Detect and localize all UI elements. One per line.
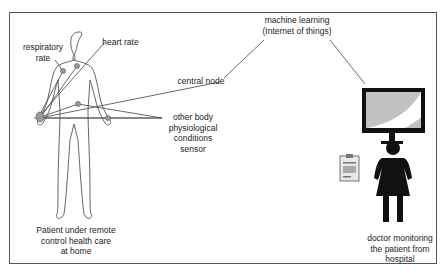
central-node-icon (36, 112, 44, 122)
body-sensor-icon (76, 102, 81, 107)
heart-rate-label: heart rate (98, 37, 143, 48)
heart-rate-sensor-icon (75, 64, 80, 69)
machine-learning-label: machine learning (Internet of things) (252, 15, 342, 36)
respiratory-rate-line-2: rate (20, 53, 66, 64)
doctor-label: doctor monitoring the patient from hospi… (362, 233, 438, 265)
other-sensor-line-4: sensor (162, 144, 224, 155)
patient-line-3: at home (28, 246, 124, 257)
patient-line-1: Patient under remote (28, 225, 124, 236)
respiratory-sensor-icon (61, 69, 66, 74)
ml-line-1: machine learning (252, 15, 342, 26)
central-node-label: central node (174, 76, 228, 87)
monitor-icon (362, 88, 425, 144)
doctor-line-1: doctor monitoring (362, 233, 438, 244)
respiratory-rate-line-1: respiratory (20, 42, 66, 53)
patient-label: Patient under remote control health care… (28, 225, 124, 257)
clipboard-icon (340, 154, 359, 181)
other-sensor-icon (106, 116, 111, 121)
other-sensor-line-3: conditions (162, 133, 224, 144)
doctor-line-3: hospital (362, 254, 438, 265)
respiratory-rate-label: respiratory rate (20, 42, 66, 63)
doctor-line-2: the patient from (362, 244, 438, 255)
other-sensor-line-1: other body (162, 112, 224, 123)
other-sensor-label: other body physiological conditions sens… (162, 112, 224, 154)
ml-line-2: (Internet of things) (252, 26, 342, 37)
patient-line-2: control health care (28, 236, 124, 247)
doctor-icon (374, 141, 412, 222)
other-sensor-line-2: physiological (162, 123, 224, 134)
